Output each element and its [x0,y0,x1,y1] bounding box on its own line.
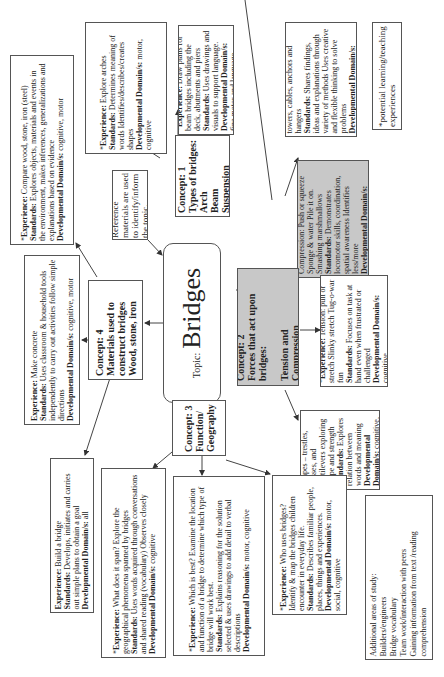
experience-span: *Experience: What does it span? Explore … [101,468,166,658]
experience-tension: *Experience: Tension: pull or stretch Sl… [320,275,388,387]
topic-box: Topic: Bridges [163,243,221,403]
concept-2-box: Concept: 2Forces that act upon bridges:T… [237,268,299,386]
experience-compression: Experience:* Introduce Compression: Push… [297,160,369,278]
legend-box: *potential learning/teaching experiences [372,22,402,130]
concept-1-box: Concept: 1Types of bridges:ArchBeamSuspe… [175,135,230,217]
topic-title: Bridges [177,268,206,349]
additional-areas-box: Additional areas of study:Builders/engin… [365,495,433,660]
topic-label: Topic: [191,353,202,378]
reference-materials-box: Reference materials are used to identify… [112,170,148,240]
experience-beam: *Experience: Draw plans for beam bridges… [178,25,234,135]
experience-build: Experience: Build a bridge Standards: De… [50,458,94,613]
experience-which-best: *Experience: Which is best? Examine the … [173,476,265,656]
experience-who-uses: *Experience: Who uses bridges? Identify … [272,475,347,615]
experience-suspension: *Experience: Suspension: towers, cables,… [285,22,357,137]
experience-arches: *Experience: Explore arches Standards: D… [85,22,167,154]
concept-3-box: Concept: 3Function/Geography [172,400,226,456]
concept-4-box: Concept: 4Materials used to construct br… [88,280,143,380]
experience-compare-materials: *Experience: Compare wood, stone, iron (… [10,55,74,245]
experience-concrete: Experience: Make concrete Standards: Use… [24,255,80,425]
